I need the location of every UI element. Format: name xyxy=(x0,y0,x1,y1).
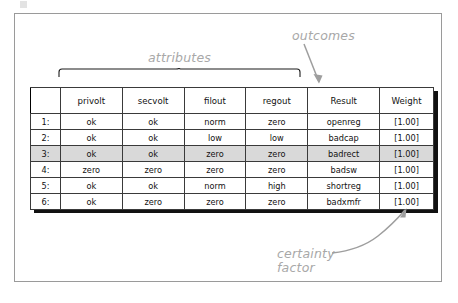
cell-filout: norm xyxy=(184,114,246,130)
cell-regout: low xyxy=(246,130,308,146)
table-row: 2:okoklowlowbadcap[1.00] xyxy=(31,130,434,146)
cell-index: 1: xyxy=(31,114,61,130)
cell-privolt: zero xyxy=(60,162,122,178)
cell-privolt: ok xyxy=(60,114,122,130)
cell-secvolt: ok xyxy=(122,114,184,130)
cell-weight: [1.00] xyxy=(380,178,434,194)
cell-index: 5: xyxy=(31,178,61,194)
cell-secvolt: zero xyxy=(122,162,184,178)
cell-filout: zero xyxy=(184,146,246,162)
cell-index: 6: xyxy=(31,194,61,210)
cell-secvolt: ok xyxy=(122,130,184,146)
table-row: 1:okoknormzeroopenreg[1.00] xyxy=(31,114,434,130)
cell-index: 2: xyxy=(31,130,61,146)
cell-privolt: ok xyxy=(60,146,122,162)
header-privolt: privolt xyxy=(60,88,122,114)
cell-secvolt: ok xyxy=(122,178,184,194)
cell-regout: high xyxy=(246,178,308,194)
cell-weight: [1.00] xyxy=(380,146,434,162)
table-header-row: privolt secvolt filout regout Result Wei… xyxy=(31,88,434,114)
cell-weight: [1.00] xyxy=(380,130,434,146)
header-filout: filout xyxy=(184,88,246,114)
header-weight: Weight xyxy=(380,88,434,114)
cell-privolt: ok xyxy=(60,194,122,210)
cell-weight: [1.00] xyxy=(380,114,434,130)
cell-index: 4: xyxy=(31,162,61,178)
cell-index: 3: xyxy=(31,146,61,162)
cell-result: badcap xyxy=(308,130,380,146)
cell-result: badsw xyxy=(308,162,380,178)
cell-filout: norm xyxy=(184,178,246,194)
annotation-outcomes: outcomes xyxy=(292,28,355,43)
cell-regout: zero xyxy=(246,146,308,162)
table-row: 5:okoknormhighshortreg[1.00] xyxy=(31,178,434,194)
table-row: 3:okokzerozerobadrect[1.00] xyxy=(31,146,434,162)
cell-result: shortreg xyxy=(308,178,380,194)
cell-regout: zero xyxy=(246,194,308,210)
cell-regout: zero xyxy=(246,114,308,130)
table-row: 4:zerozerozerozerobadsw[1.00] xyxy=(31,162,434,178)
annotation-attributes: attributes xyxy=(148,50,211,65)
page-canvas: attributes outcomes privolt secvolt filo… xyxy=(0,0,458,303)
cell-result: badrect xyxy=(308,146,380,162)
header-secvolt: secvolt xyxy=(122,88,184,114)
cell-secvolt: zero xyxy=(122,194,184,210)
attributes-brace xyxy=(58,68,301,77)
cell-filout: zero xyxy=(184,162,246,178)
scan-artifact xyxy=(20,1,27,8)
table-body: 1:okoknormzeroopenreg[1.00]2:okoklowlowb… xyxy=(31,114,434,210)
certainty-factor-arrow-icon xyxy=(330,203,425,255)
header-result: Result xyxy=(308,88,380,114)
rules-table: privolt secvolt filout regout Result Wei… xyxy=(30,87,434,210)
cell-weight: [1.00] xyxy=(380,162,434,178)
header-index xyxy=(31,88,61,114)
cell-privolt: ok xyxy=(60,178,122,194)
cell-filout: zero xyxy=(184,194,246,210)
header-regout: regout xyxy=(246,88,308,114)
cell-result: openreg xyxy=(308,114,380,130)
cell-privolt: ok xyxy=(60,130,122,146)
cell-filout: low xyxy=(184,130,246,146)
outcomes-arrow-icon xyxy=(300,42,340,88)
cell-secvolt: ok xyxy=(122,146,184,162)
cell-regout: zero xyxy=(246,162,308,178)
